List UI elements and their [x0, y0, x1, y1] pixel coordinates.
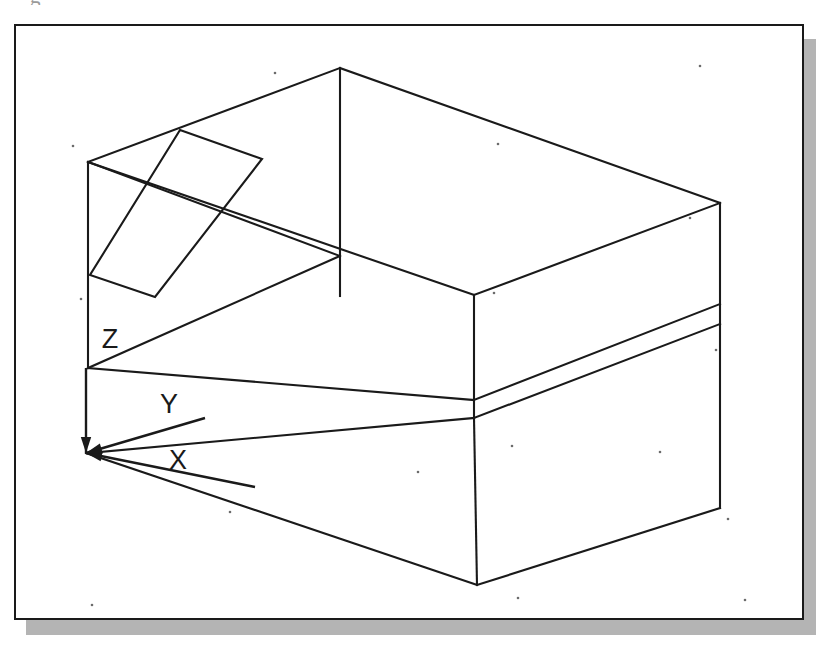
paper-speck	[417, 471, 420, 474]
axis-label-x: X	[169, 447, 187, 474]
edge-top-face-back-left	[88, 68, 340, 162]
edge-bottom-right-edge	[477, 508, 720, 585]
paper-speck	[493, 292, 496, 295]
paper-specks	[72, 65, 747, 607]
edge-top-face-back-right	[340, 68, 720, 203]
paper-speck	[72, 145, 75, 148]
edge-shelf-left-edge	[88, 368, 474, 400]
edge-back-left-lower-edge	[88, 162, 340, 256]
paper-speck	[699, 65, 702, 68]
screenshot-root: g XYZ	[0, 0, 829, 654]
paper-speck	[229, 511, 232, 514]
paper-speck	[497, 143, 500, 146]
paper-speck	[91, 604, 94, 607]
paper-speck	[727, 518, 730, 521]
paper-speck	[80, 298, 83, 301]
edge-shelf-right-edge	[474, 304, 720, 400]
axis-label-z: Z	[102, 326, 119, 353]
paper-speck	[659, 451, 662, 454]
paper-speck	[517, 597, 520, 600]
edge-lower-shelf-right	[474, 324, 720, 418]
edge-shelf-back-left	[88, 256, 340, 368]
wireframe-edges	[86, 68, 720, 585]
axis-label-y: Y	[160, 391, 178, 418]
edge-top-face-front-right	[474, 203, 720, 295]
wireframe-canvas	[0, 0, 829, 654]
paper-speck	[689, 217, 692, 220]
paper-speck	[715, 349, 718, 352]
paper-speck	[274, 72, 277, 75]
paper-speck	[511, 445, 514, 448]
ucs-icon-group	[81, 368, 255, 487]
edge-top-face-front-left	[88, 162, 474, 295]
paper-speck	[744, 599, 747, 602]
edge-front-vertical-lower	[474, 418, 477, 585]
